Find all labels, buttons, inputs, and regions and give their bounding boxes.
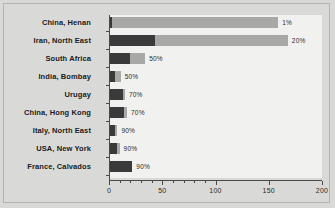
y-tick <box>106 31 109 32</box>
y-tick <box>106 103 109 104</box>
x-tick-major <box>216 181 217 185</box>
category-label: Iran, North East <box>34 36 91 45</box>
bar-segment-dark-segment[interactable] <box>110 161 132 172</box>
y-tick <box>106 49 109 50</box>
category-label: Italy, North East <box>33 126 91 135</box>
bar-segment-dark-segment[interactable] <box>110 107 124 118</box>
x-tick-minor <box>152 181 153 183</box>
bar-row[interactable]: 20% <box>110 35 323 46</box>
y-tick <box>106 157 109 158</box>
x-tick-label: 100 <box>209 187 221 194</box>
bar-segment-light-segment[interactable] <box>115 71 120 82</box>
x-tick-label: 0 <box>107 187 111 194</box>
category-label: Urugay <box>65 90 91 99</box>
bar-segment-light-segment[interactable] <box>117 143 119 154</box>
bar-row[interactable]: 50% <box>110 71 323 82</box>
y-tick <box>106 67 109 68</box>
x-tick-minor <box>194 181 195 183</box>
bar-row[interactable]: 90% <box>110 125 323 136</box>
chart-frame: China, HenanIran, North EastSouth Africa… <box>3 3 330 203</box>
y-tick <box>106 121 109 122</box>
y-tick <box>106 139 109 140</box>
bar-value-label: 90% <box>124 145 138 152</box>
x-tick-major <box>162 181 163 185</box>
y-tick <box>106 85 109 86</box>
bar-value-label: 1% <box>282 19 292 26</box>
bar-segment-light-segment[interactable] <box>115 125 117 136</box>
bar-row[interactable]: 50% <box>110 53 323 64</box>
bar-row[interactable]: 70% <box>110 89 323 100</box>
x-tick-minor <box>184 181 185 183</box>
x-tick-major <box>269 181 270 185</box>
category-label: South Africa <box>45 54 91 63</box>
category-label: China, Henan <box>42 18 91 27</box>
bar-segment-light-segment[interactable] <box>112 17 278 28</box>
bar-value-label: 50% <box>125 73 139 80</box>
x-tick-minor <box>120 181 121 183</box>
bar-segment-light-segment[interactable] <box>124 107 127 118</box>
y-tick <box>106 175 109 176</box>
bar-segment-dark-segment[interactable] <box>110 89 123 100</box>
bar-segment-dark-segment[interactable] <box>110 35 155 46</box>
x-tick-major <box>109 181 110 185</box>
category-label: China, Hong Kong <box>24 108 91 117</box>
bar-segment-dark-segment[interactable] <box>110 143 117 154</box>
x-tick-minor <box>130 181 131 183</box>
x-tick-label: 150 <box>263 187 275 194</box>
x-tick-label: 200 <box>316 187 328 194</box>
bar-value-label: 90% <box>136 163 150 170</box>
bar-value-label: 70% <box>129 91 143 98</box>
bar-segment-light-segment[interactable] <box>130 53 145 64</box>
bar-value-label: 20% <box>292 37 306 44</box>
x-tick-label: 50 <box>158 187 166 194</box>
bar-row[interactable]: 90% <box>110 143 323 154</box>
bar-value-label: 50% <box>149 55 163 62</box>
bar-row[interactable]: 70% <box>110 107 323 118</box>
x-tick-minor <box>141 181 142 183</box>
category-label: India, Bombay <box>38 72 91 81</box>
bar-row[interactable]: 90% <box>110 161 323 172</box>
x-tick-minor <box>205 181 206 183</box>
category-label: France, Calvados <box>27 162 91 171</box>
bar-segment-light-segment[interactable] <box>123 89 125 100</box>
bar-segment-dark-segment[interactable] <box>110 53 130 64</box>
x-tick-major <box>322 181 323 185</box>
x-tick-minor <box>173 181 174 183</box>
bar-row[interactable]: 1% <box>110 17 323 28</box>
category-label: USA, New York <box>36 144 91 153</box>
bar-value-label: 90% <box>121 127 135 134</box>
bar-segment-light-segment[interactable] <box>155 35 288 46</box>
bar-value-label: 70% <box>131 109 145 116</box>
